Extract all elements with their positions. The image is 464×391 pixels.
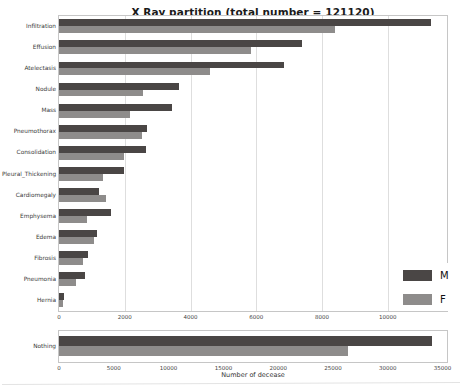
- category-label-edema: Edema: [2, 234, 56, 241]
- gridline: [191, 16, 192, 311]
- bar-m-fibrosis: [59, 251, 88, 258]
- bar-m-pneumothorax: [59, 125, 147, 132]
- bar-m-mass: [59, 104, 172, 111]
- category-label-emphysema: Emphysema: [2, 213, 56, 220]
- x-tick-label: 4000: [171, 314, 211, 320]
- category-label-pneumonia: Pneumonia: [2, 276, 56, 283]
- category-label-nothing: Nothing: [2, 343, 56, 350]
- scan-artifact-line: [2, 382, 460, 385]
- bar-m-edema: [59, 230, 97, 237]
- bottom-plot-area: Nothing050001000015000200002500030000350…: [58, 330, 448, 363]
- bar-m-pneumonia: [59, 272, 85, 279]
- bar-m-hernia: [59, 293, 64, 300]
- bar-m-nodule: [59, 83, 179, 90]
- bar-f-mass: [59, 111, 130, 118]
- category-label-atelectasis: Atelectasis: [2, 65, 56, 72]
- bar-f-cardiomegaly: [59, 195, 106, 202]
- category-label-consolidation: Consolidation: [2, 149, 56, 156]
- category-label-hernia: Hernia: [2, 297, 56, 304]
- bar-f-pneumonia: [59, 279, 76, 286]
- bar-m-effusion: [59, 40, 302, 47]
- bar-m-infiltration: [59, 19, 431, 26]
- x-tick-label: 6000: [236, 314, 276, 320]
- bar-f-effusion: [59, 47, 251, 54]
- bar-f-nothing: [59, 346, 348, 356]
- bar-m-emphysema: [59, 209, 111, 216]
- chart-figure: X Ray partition (total number = 121120) …: [0, 0, 464, 391]
- bar-f-hernia: [59, 300, 63, 307]
- bar-m-nothing: [59, 336, 432, 346]
- gridline: [256, 16, 257, 311]
- category-label-effusion: Effusion: [2, 44, 56, 51]
- bar-m-cardiomegaly: [59, 188, 99, 195]
- legend-item-f: F: [403, 291, 461, 307]
- bar-m-consolidation: [59, 146, 146, 153]
- bar-f-pneumothorax: [59, 132, 142, 139]
- bar-f-nodule: [59, 90, 143, 97]
- bar-m-atelectasis: [59, 62, 284, 69]
- bar-f-fibrosis: [59, 258, 83, 265]
- legend-label-f: F: [440, 294, 446, 305]
- category-label-pneumothorax: Pneumothorax: [2, 128, 56, 135]
- category-label-mass: Mass: [2, 107, 56, 114]
- x-tick-label: 2000: [105, 314, 145, 320]
- gridline: [388, 16, 389, 311]
- category-label-pleural_thickening: Pleural_Thickening: [2, 171, 56, 178]
- legend-swatch-m-icon: [403, 270, 432, 281]
- category-label-fibrosis: Fibrosis: [2, 255, 56, 262]
- bar-f-edema: [59, 237, 94, 244]
- bar-f-pleural_thickening: [59, 174, 103, 181]
- x-tick-label: 0: [39, 314, 79, 320]
- top-plot-area: InfiltrationEffusionAtelectasisNoduleMas…: [58, 15, 448, 312]
- x-tick-label: 8000: [302, 314, 342, 320]
- legend-label-m: M: [440, 270, 449, 281]
- legend: M F: [403, 263, 461, 311]
- category-label-infiltration: Infiltration: [2, 23, 56, 30]
- bar-f-emphysema: [59, 216, 87, 223]
- gridline: [322, 16, 323, 311]
- category-label-nodule: Nodule: [2, 86, 56, 93]
- legend-swatch-f-icon: [403, 294, 432, 305]
- bar-m-pleural_thickening: [59, 167, 124, 174]
- bar-f-infiltration: [59, 26, 335, 33]
- gridline: [125, 16, 126, 311]
- x-tick-label: 10000: [368, 314, 408, 320]
- x-axis-label: Number of decease: [58, 371, 448, 379]
- category-label-cardiomegaly: Cardiomegaly: [2, 192, 56, 199]
- bar-f-consolidation: [59, 153, 124, 160]
- bar-f-atelectasis: [59, 68, 210, 75]
- legend-item-m: M: [403, 267, 461, 283]
